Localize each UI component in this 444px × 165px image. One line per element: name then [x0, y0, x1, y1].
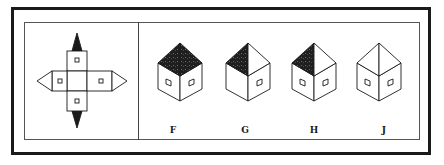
net-roof-top-shaded: [72, 33, 82, 51]
net-window-left: [58, 79, 62, 83]
net-roof-left: [37, 71, 52, 91]
option-f-house: [158, 43, 202, 101]
option-h-label: H: [310, 125, 319, 135]
net-window-top: [75, 58, 79, 62]
net-window-right: [99, 79, 103, 83]
house-net: [37, 33, 127, 128]
net-window-bottom: [75, 99, 79, 103]
net-roof-bottom-shaded: [72, 111, 82, 128]
figure-canvas: [0, 0, 444, 165]
option-g-house: [226, 43, 270, 101]
option-j-house: [357, 43, 401, 101]
option-g-label: G: [241, 125, 249, 135]
net-roof-right: [112, 71, 127, 91]
net-wall-center: [67, 71, 87, 91]
option-j-label: J: [382, 125, 386, 135]
option-f-label: F: [170, 125, 176, 135]
option-h-house: [292, 43, 336, 101]
